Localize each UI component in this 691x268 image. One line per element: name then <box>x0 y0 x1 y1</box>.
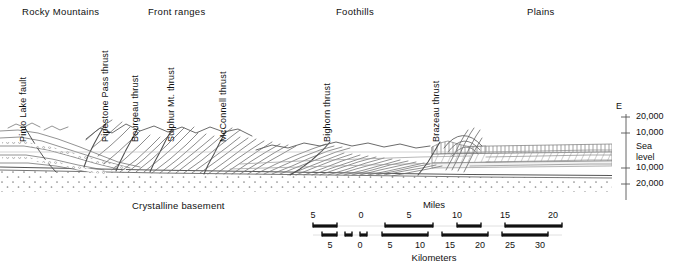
region-label-front-ranges: Front ranges <box>148 6 205 17</box>
scale-miles-segment-2 <box>457 224 481 227</box>
region-label-foothills: Foothills <box>336 6 374 17</box>
scale-title-kilometers: Kilometers <box>412 252 457 263</box>
scale-kilometers-tick-7: 30 <box>535 240 545 250</box>
scale-kilometers-tick-0: 5 <box>327 240 332 250</box>
fault-label-sulphur-mt-thrust: Sulphur Mt. thrust <box>166 67 176 142</box>
scale-km-segment-2 <box>360 233 367 236</box>
east-direction-label: E <box>616 101 622 111</box>
elevation-tick-10000-above: 10,000 <box>636 127 664 137</box>
scale-bar-group <box>313 223 562 237</box>
scale-miles-segment-1 <box>385 224 433 227</box>
scale-kilometers-tick-4: 15 <box>445 240 455 250</box>
elevation-tick-20000-above: 20,000 <box>636 111 664 121</box>
scale-km-segment-5 <box>502 233 548 236</box>
elevation-tick-10000-below: 10,000 <box>636 162 664 172</box>
fault-label-pinto-lake-fault: Pinto Lake fault <box>18 77 28 142</box>
scale-km-segment-0 <box>322 233 337 236</box>
scale-miles-tick-1: 0 <box>358 210 363 220</box>
fault-label-mcconnell-thrust: McConnell thrust <box>218 71 228 142</box>
region-label-rocky-mountains: Rocky Mountains <box>22 6 99 17</box>
elevation-tick-20000-below: 20,000 <box>636 178 664 188</box>
crystalline-basement <box>0 170 612 192</box>
scale-miles-tick-2: 5 <box>406 210 411 220</box>
geologic-cross-section-figure: Rocky Mountains Front ranges Foothills P… <box>0 0 691 268</box>
scale-miles-segment-3 <box>505 224 562 227</box>
scale-miles-tick-4: 15 <box>500 210 510 220</box>
elevation-axis <box>621 114 630 200</box>
scale-kilometers-tick-2: 5 <box>387 240 392 250</box>
scale-miles-tick-0: 5 <box>310 210 315 220</box>
region-label-plains: Plains <box>527 6 555 17</box>
scale-miles-tick-3: 10 <box>452 210 462 220</box>
scale-km-segment-4 <box>442 233 488 236</box>
elevation-sea-label: Sea <box>636 141 652 151</box>
elevation-level-label: level <box>636 152 655 162</box>
scale-title-miles: Miles <box>423 199 445 210</box>
fault-label-brazeau-thrust: Brazeau thrust <box>431 81 441 142</box>
scale-miles-tick-5: 20 <box>548 210 558 220</box>
fault-label-bighorn-thrust: Bighorn thrust <box>322 83 332 142</box>
scale-kilometers-tick-5: 20 <box>475 240 485 250</box>
fault-label-pipestone-pass-thrust: Pipestone Pass thrust <box>100 50 110 142</box>
fault-label-bourgeau-thrust: Bourgeau thrust <box>130 75 140 142</box>
scale-miles-segment-0 <box>313 224 337 227</box>
scale-kilometers-tick-1: 0 <box>357 240 362 250</box>
scale-km-segment-3 <box>382 233 428 236</box>
scale-kilometers-tick-6: 25 <box>505 240 515 250</box>
scale-kilometers-tick-3: 10 <box>415 240 425 250</box>
crystalline-basement-label: Crystalline basement <box>132 200 225 211</box>
scale-km-segment-1 <box>345 233 352 236</box>
